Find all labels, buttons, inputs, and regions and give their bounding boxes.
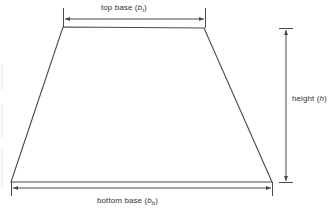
bottom-base-subscript: b — [152, 200, 155, 206]
diagram-canvas — [0, 0, 335, 216]
bottom-base-label-close: ) — [155, 196, 158, 205]
height-label-close: ) — [324, 94, 327, 103]
trapezoid-diagram-figure: top base (bt) bottom base (bb) height (h… — [0, 0, 335, 216]
height-label: height (h) — [292, 94, 327, 104]
top-base-subscript: t — [142, 7, 144, 13]
height-dimension — [279, 29, 293, 183]
height-label-text: height ( — [292, 94, 319, 103]
bottom-base-label-text: bottom base ( — [97, 196, 147, 205]
bottom-base-label: bottom base (bb) — [97, 196, 158, 206]
bottom-base-dimension — [12, 182, 273, 196]
top-base-label: top base (bt) — [101, 3, 147, 13]
top-base-label-close: ) — [144, 3, 147, 12]
top-base-label-text: top base ( — [101, 3, 138, 12]
trapezoid-outline — [11, 27, 272, 182]
